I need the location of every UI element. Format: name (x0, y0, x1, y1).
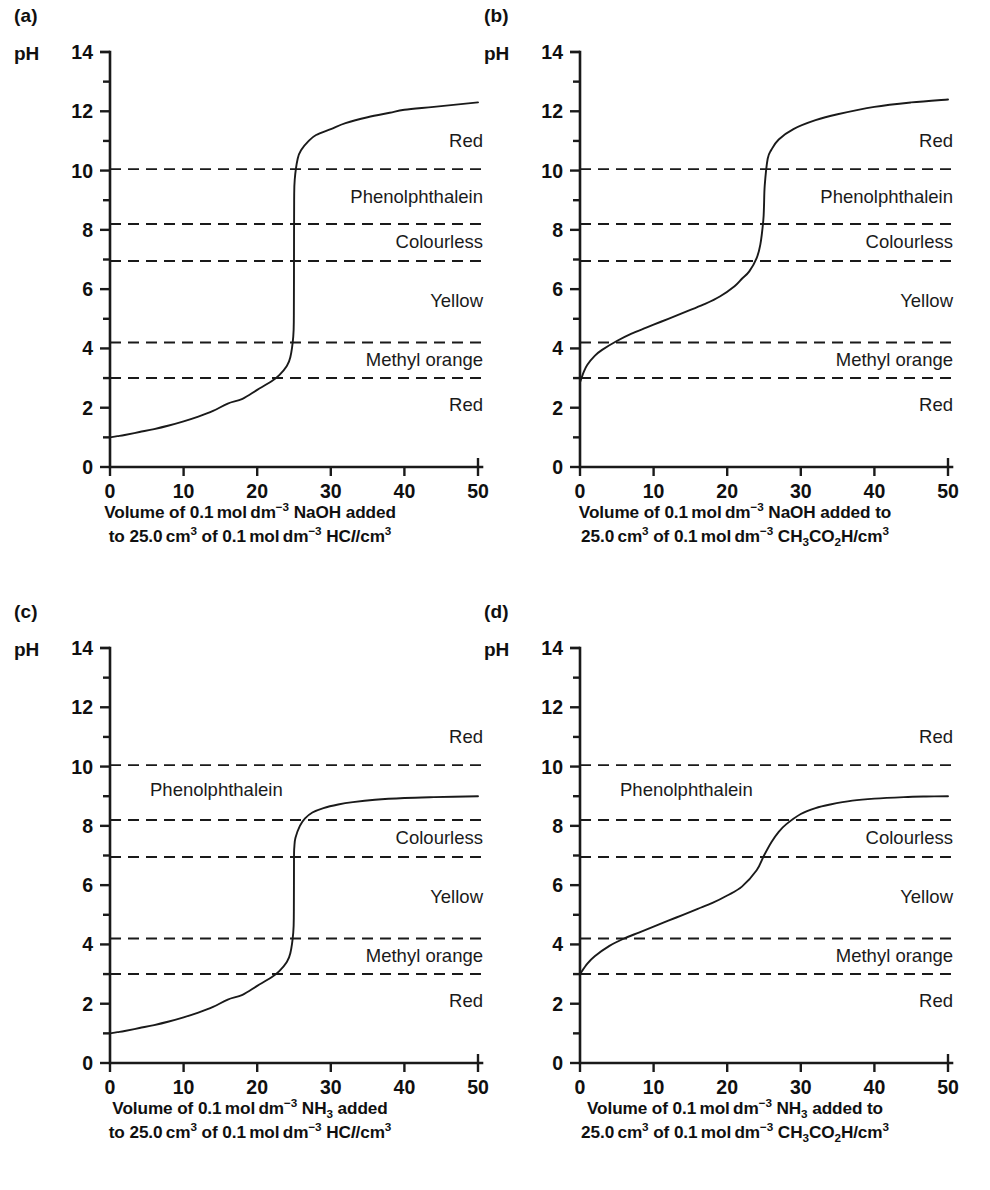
panel-b-caption-line2: 25.0 cm3 of 0.1 mol dm−3 CH3CO2H/cm3 (500, 524, 970, 548)
y-tick-label-2: 2 (552, 993, 563, 1015)
axes (580, 648, 952, 1063)
axes (580, 52, 952, 467)
y-tick-label-8: 8 (552, 815, 563, 837)
y-tick-label-14: 14 (541, 637, 563, 659)
panel-b-caption-line1: Volume of 0.1 mol dm−3 NaOH added to (500, 500, 970, 524)
zone-label-methyl-orange: Methyl orange (836, 349, 953, 370)
y-tick-label-2: 2 (82, 993, 93, 1015)
panel-d-caption-line2: 25.0 cm3 of 0.1 mol dm−3 CH3CO2H/cm3 (500, 1120, 970, 1144)
zone-label-methyl-orange: Methyl orange (366, 349, 483, 370)
y-tick-label-6: 6 (82, 278, 93, 300)
y-tick-label-12: 12 (541, 696, 563, 718)
y-tick-label-10: 10 (71, 160, 93, 182)
y-tick-label-2: 2 (82, 397, 93, 419)
zone-label-red-top: Red (919, 130, 953, 151)
y-tick-label-4: 4 (552, 933, 563, 955)
y-tick-label-12: 12 (71, 100, 93, 122)
x-tick-label-0: 0 (105, 480, 116, 502)
panel-b-plot: 0246810121401020304050RedPhenolphthalein… (470, 0, 990, 500)
zone-label-colourless: Colourless (866, 231, 953, 252)
x-tick-label-10: 10 (173, 480, 195, 502)
y-tick-label-0: 0 (552, 456, 563, 478)
x-tick-label-0: 0 (575, 480, 586, 502)
y-tick-label-8: 8 (552, 219, 563, 241)
y-tick-label-10: 10 (541, 756, 563, 778)
panel-a-plot: 0246810121401020304050RedPhenolphthalein… (0, 0, 500, 500)
x-tick-label-10: 10 (643, 1076, 665, 1098)
x-tick-label-40: 40 (864, 1076, 886, 1098)
y-tick-label-4: 4 (82, 337, 93, 359)
y-tick-label-4: 4 (552, 337, 563, 359)
panel-c-caption-line2: to 25.0 cm3 of 0.1 mol dm−3 HCl/cm3 (40, 1120, 460, 1144)
titration-curve-a (110, 102, 478, 437)
y-tick-label-10: 10 (71, 756, 93, 778)
zone-label-phenolphthalein: Phenolphthalein (820, 186, 953, 207)
panel-d-caption: Volume of 0.1 mol dm−3 NH3 added to 25.0… (500, 1096, 970, 1145)
x-tick-label-30: 30 (320, 1076, 342, 1098)
panel-c-plot: 0246810121401020304050RedPhenolphthalein… (0, 596, 500, 1096)
y-tick-label-6: 6 (552, 278, 563, 300)
x-tick-label-20: 20 (246, 1076, 268, 1098)
panel-a-caption-line2: to 25.0 cm3 of 0.1 mol dm−3 HCl/cm3 (40, 524, 460, 548)
y-tick-label-12: 12 (541, 100, 563, 122)
y-tick-label-4: 4 (82, 933, 93, 955)
zone-label-phenolphthalein: Phenolphthalein (150, 779, 283, 800)
panel-d-plot: 0246810121401020304050RedPhenolphthalein… (470, 596, 990, 1096)
zone-label-phenolphthalein: Phenolphthalein (620, 779, 753, 800)
x-tick-label-40: 40 (394, 1076, 416, 1098)
zone-label-red-top: Red (919, 726, 953, 747)
y-tick-label-8: 8 (82, 815, 93, 837)
zone-label-red-bottom: Red (919, 394, 953, 415)
panel-d-caption-line1: Volume of 0.1 mol dm−3 NH3 added to (500, 1096, 970, 1120)
panel-a-caption-line1: Volume of 0.1 mol dm−3 NaOH added (40, 500, 460, 524)
y-tick-label-2: 2 (552, 397, 563, 419)
y-tick-label-6: 6 (552, 874, 563, 896)
zone-label-phenolphthalein: Phenolphthalein (350, 186, 483, 207)
x-tick-label-50: 50 (937, 480, 959, 502)
y-tick-label-0: 0 (82, 1052, 93, 1074)
zone-label-yellow: Yellow (900, 886, 953, 907)
x-tick-label-50: 50 (937, 1076, 959, 1098)
x-tick-label-20: 20 (716, 480, 738, 502)
zone-label-methyl-orange: Methyl orange (836, 945, 953, 966)
x-tick-label-0: 0 (575, 1076, 586, 1098)
panel-c-caption-line1: Volume of 0.1 mol dm−3 NH3 added (40, 1096, 460, 1120)
x-tick-label-40: 40 (394, 480, 416, 502)
x-tick-label-30: 30 (790, 480, 812, 502)
zone-label-methyl-orange: Methyl orange (366, 945, 483, 966)
y-tick-label-12: 12 (71, 696, 93, 718)
panel-a-caption: Volume of 0.1 mol dm−3 NaOH added to 25.… (40, 500, 460, 549)
x-tick-label-30: 30 (790, 1076, 812, 1098)
axes (110, 52, 482, 467)
zone-label-colourless: Colourless (866, 827, 953, 848)
x-tick-label-30: 30 (320, 480, 342, 502)
x-tick-label-10: 10 (173, 1076, 195, 1098)
zone-label-yellow: Yellow (900, 290, 953, 311)
y-tick-label-14: 14 (71, 637, 93, 659)
x-tick-label-10: 10 (643, 480, 665, 502)
x-tick-label-20: 20 (246, 480, 268, 502)
panel-c-caption: Volume of 0.1 mol dm−3 NH3 added to 25.0… (40, 1096, 460, 1145)
axes (110, 648, 482, 1063)
y-tick-label-0: 0 (552, 1052, 563, 1074)
y-tick-label-10: 10 (541, 160, 563, 182)
y-tick-label-8: 8 (82, 219, 93, 241)
y-tick-label-14: 14 (71, 41, 93, 63)
y-tick-label-0: 0 (82, 456, 93, 478)
zone-label-red-bottom: Red (919, 990, 953, 1011)
x-tick-label-40: 40 (864, 480, 886, 502)
y-tick-label-14: 14 (541, 41, 563, 63)
panel-b-caption: Volume of 0.1 mol dm−3 NaOH added to 25.… (500, 500, 970, 549)
x-tick-label-20: 20 (716, 1076, 738, 1098)
x-tick-label-0: 0 (105, 1076, 116, 1098)
y-tick-label-6: 6 (82, 874, 93, 896)
titration-curves-figure: (a) pH 0246810121401020304050RedPhenolph… (0, 0, 990, 1190)
